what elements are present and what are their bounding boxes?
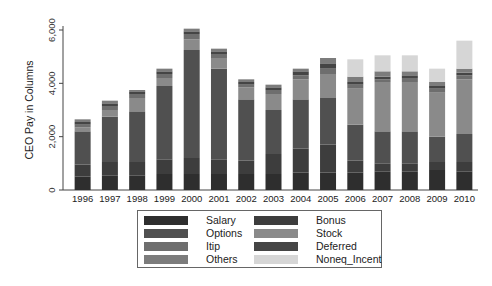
legend-swatch xyxy=(144,229,188,238)
legend-swatch xyxy=(254,216,298,225)
bar-segment-noneq_incent xyxy=(375,55,391,71)
bar-segment-options xyxy=(211,69,227,160)
bar-segment-options xyxy=(456,134,472,162)
stacked-bar-chart: 02,0004,0006,000CEO Pay in Columns199619… xyxy=(0,0,492,210)
bar-segment-bonus xyxy=(238,161,254,174)
bar-segment-bonus xyxy=(429,162,445,170)
x-tick-label: 2007 xyxy=(372,193,393,204)
legend-swatch xyxy=(144,242,188,251)
bar-segment-itip xyxy=(347,85,363,89)
bar-segment-noneq_incent xyxy=(347,59,363,76)
x-tick-label: 1997 xyxy=(99,193,120,204)
bar-segment-itip xyxy=(75,125,91,128)
legend-swatch xyxy=(254,255,298,264)
bar-segment-itip xyxy=(293,75,309,79)
bar-segment-others xyxy=(129,90,145,91)
y-tick-label: 0 xyxy=(46,187,57,192)
legend-item: Options xyxy=(144,227,242,239)
bar-segment-stock xyxy=(402,82,418,131)
bar-segment-options xyxy=(102,117,118,162)
x-tick-label: 1998 xyxy=(127,193,148,204)
bar-segment-options xyxy=(320,98,336,145)
x-tick-label: 2006 xyxy=(345,193,366,204)
bar-segment-others xyxy=(238,79,254,82)
bar-segment-noneq_incent xyxy=(402,55,418,71)
bar-segment-salary xyxy=(402,171,418,190)
bar-segment-bonus xyxy=(456,162,472,171)
x-tick-label: 2005 xyxy=(317,193,338,204)
bar-segment-options xyxy=(156,86,172,159)
bar-segment-others xyxy=(320,58,336,63)
bar-segment-itip xyxy=(156,74,172,78)
x-tick-label: 2001 xyxy=(208,193,229,204)
bar-segment-bonus xyxy=(184,158,200,174)
bar-segment-bonus xyxy=(156,159,172,174)
legend-label: Salary xyxy=(206,214,236,226)
x-tick-label: 1996 xyxy=(72,193,93,204)
bar-segment-deferred xyxy=(211,51,227,54)
legend-item: Itip xyxy=(144,240,220,252)
bar-segment-others xyxy=(266,85,282,88)
legend-item: Salary xyxy=(144,214,236,226)
legend-label: Bonus xyxy=(316,214,346,226)
bar-segment-salary xyxy=(266,174,282,190)
bar-segment-others xyxy=(402,71,418,75)
x-tick-label: 2008 xyxy=(399,193,420,204)
legend-label: Itip xyxy=(206,240,220,252)
legend-swatch xyxy=(144,216,188,225)
x-tick-label: 2010 xyxy=(454,193,475,204)
legend-label: Others xyxy=(206,253,238,265)
chart-legend: SalaryBonusOptionsStockItipDeferredOther… xyxy=(137,210,382,268)
bar-segment-deferred xyxy=(347,82,363,85)
legend-item: Noneq_Incent xyxy=(254,253,381,265)
bar-segment-itip xyxy=(266,90,282,94)
bar-segment-stock xyxy=(75,127,91,131)
bar-segment-salary xyxy=(184,174,200,190)
bar-segment-options xyxy=(75,131,91,164)
bar-segment-bonus xyxy=(266,154,282,174)
bar-segment-others xyxy=(429,82,445,86)
legend-label: Deferred xyxy=(316,240,357,252)
bar-segment-stock xyxy=(293,79,309,99)
bar-segment-salary xyxy=(211,174,227,190)
bar-segment-options xyxy=(129,111,145,162)
bar-segment-noneq_incent xyxy=(456,41,472,69)
bar-segment-options xyxy=(238,99,254,160)
bar-segment-bonus xyxy=(102,162,118,175)
bar-segment-itip xyxy=(102,106,118,110)
bar-segment-salary xyxy=(347,173,363,190)
legend-label: Noneq_Incent xyxy=(316,253,381,265)
bar-segment-deferred xyxy=(156,71,172,74)
bar-segment-options xyxy=(347,125,363,161)
bar-segment-itip xyxy=(402,78,418,82)
bar-segment-itip xyxy=(238,85,254,88)
bar-segment-others xyxy=(456,69,472,73)
x-tick-label: 2002 xyxy=(236,193,257,204)
bar-segment-salary xyxy=(320,173,336,190)
bar-segment-salary xyxy=(156,174,172,190)
bar-segment-deferred xyxy=(293,71,309,75)
bar-segment-deferred xyxy=(129,91,145,94)
x-tick-label: 2004 xyxy=(290,193,311,204)
y-tick-label: 2,000 xyxy=(46,125,57,149)
bar-segment-deferred xyxy=(75,122,91,125)
bar-segment-stock xyxy=(184,39,200,50)
bar-segment-deferred xyxy=(102,103,118,106)
legend-swatch xyxy=(254,242,298,251)
bar-segment-stock xyxy=(266,94,282,110)
bar-segment-options xyxy=(184,50,200,158)
bar-segment-deferred xyxy=(266,87,282,90)
bar-segment-salary xyxy=(102,175,118,190)
legend-item: Others xyxy=(144,253,238,265)
bar-segment-options xyxy=(429,137,445,162)
bar-segment-others xyxy=(102,101,118,104)
bar-segment-others xyxy=(375,71,391,76)
bar-segment-stock xyxy=(102,110,118,117)
bar-segment-options xyxy=(402,131,418,163)
bar-segment-salary xyxy=(375,171,391,190)
bar-segment-itip xyxy=(129,94,145,98)
bar-segment-others xyxy=(211,49,227,52)
bar-segment-options xyxy=(293,99,309,148)
bar-segment-itip xyxy=(184,34,200,39)
x-tick-label: 2009 xyxy=(427,193,448,204)
